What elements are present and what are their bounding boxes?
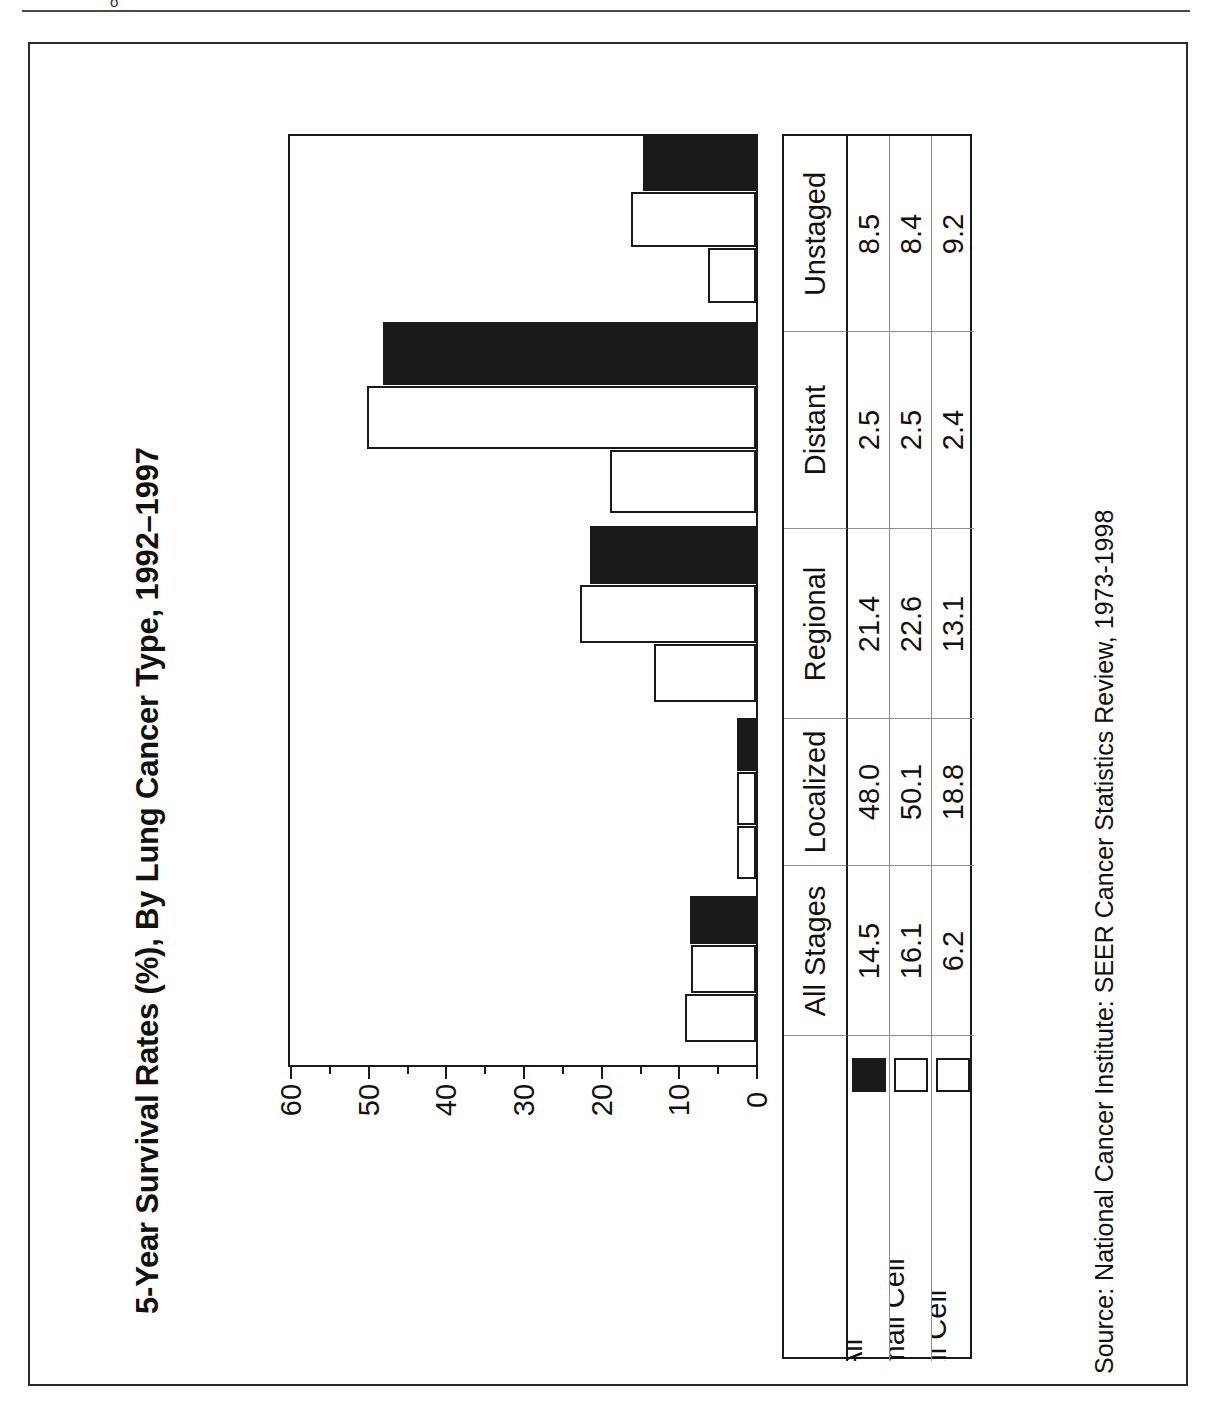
bar-distant-all — [737, 718, 756, 771]
bar-all-stages-non-small-cell — [631, 192, 756, 247]
axis-tick-label-10: 10 — [663, 1065, 693, 1135]
legend-label-non-small-cell: Non-Small Cell — [890, 1258, 911, 1361]
bar-localized-all — [383, 322, 756, 385]
axis-tick-35 — [484, 1065, 486, 1074]
page-header-cropped-text: o — [110, 0, 170, 7]
axis-tick-label-30: 30 — [508, 1065, 538, 1135]
page-title: 5-Year Survival Rates (%), By Lung Cance… — [118, 154, 178, 1314]
axis-tick-55 — [329, 1065, 331, 1074]
table-cell-non-small-cell-distant: 2.5 — [890, 332, 932, 529]
table-column-header-all-stages: All Stages — [784, 866, 848, 1036]
data-table: Unstaged8.58.49.2Distant2.52.52.4Regiona… — [782, 134, 972, 1359]
table-cell-non-small-cell-all-stages: 16.1 — [890, 866, 932, 1036]
axis-tick-label-20: 20 — [586, 1065, 616, 1135]
table-cell-non-small-cell-localized: 50.1 — [890, 719, 932, 866]
table-row-header-non-small-cell: Non-Small Cell — [890, 1036, 932, 1361]
bar-unstaged-all — [690, 896, 756, 944]
bar-unstaged-small-cell — [685, 994, 756, 1042]
table-column-header-regional: Regional — [784, 529, 848, 719]
bar-localized-non-small-cell — [367, 386, 756, 449]
table-cell-all-regional: 21.4 — [848, 529, 890, 719]
axis-tick-label-40: 40 — [430, 1065, 460, 1135]
axis-tick-5 — [717, 1065, 719, 1074]
legend-label-all: All — [848, 1339, 869, 1361]
axis-tick-label-60: 60 — [275, 1065, 305, 1135]
data-table-grid: Unstaged8.58.49.2Distant2.52.52.4Regiona… — [782, 134, 972, 1359]
table-corner-cell — [784, 1036, 848, 1361]
table-cell-all-all-stages: 14.5 — [848, 866, 890, 1036]
legend-swatch-all — [852, 1058, 886, 1092]
table-cell-small-cell-regional: 13.1 — [932, 529, 974, 719]
table-cell-non-small-cell-regional: 22.6 — [890, 529, 932, 719]
bar-regional-small-cell — [654, 644, 756, 702]
axis-tick-15 — [640, 1065, 642, 1074]
legend-swatch-small-cell — [936, 1058, 970, 1092]
table-cell-non-small-cell-unstaged: 8.4 — [890, 136, 932, 332]
axis-tick-45 — [407, 1065, 409, 1074]
bar-localized-small-cell — [610, 450, 756, 513]
table-cell-all-localized: 48.0 — [848, 719, 890, 866]
table-row-header-small-cell: Small Cell — [932, 1036, 974, 1361]
axis-tick-label-50: 50 — [353, 1065, 383, 1135]
bar-unstaged-non-small-cell — [691, 945, 756, 993]
bar-regional-all — [590, 526, 756, 584]
table-column-header-localized: Localized — [784, 719, 848, 866]
table-column-header-unstaged: Unstaged — [784, 136, 848, 332]
figure-border: 5-Year Survival Rates (%), By Lung Cance… — [28, 42, 1188, 1386]
page-header-rule — [22, 10, 1190, 12]
plot-area — [288, 134, 758, 1067]
table-row-header-all: All — [848, 1036, 890, 1361]
axis-tick-label-0: 0 — [741, 1065, 771, 1135]
axis-tick-25 — [562, 1065, 564, 1074]
bar-distant-small-cell — [737, 826, 756, 879]
bar-all-stages-small-cell — [708, 248, 756, 303]
legend-swatch-non-small-cell — [894, 1058, 928, 1092]
table-cell-small-cell-unstaged: 9.2 — [932, 136, 974, 332]
table-cell-small-cell-distant: 2.4 — [932, 332, 974, 529]
table-column-header-distant: Distant — [784, 332, 848, 529]
bar-distant-non-small-cell — [737, 772, 756, 825]
bar-regional-non-small-cell — [580, 585, 756, 643]
table-cell-small-cell-all-stages: 6.2 — [932, 866, 974, 1036]
table-cell-small-cell-localized: 18.8 — [932, 719, 974, 866]
source-note: Source: National Cancer Institute: SEER … — [1090, 374, 1126, 1374]
bar-all-stages-all — [643, 136, 756, 191]
table-cell-all-distant: 2.5 — [848, 332, 890, 529]
table-cell-all-unstaged: 8.5 — [848, 136, 890, 332]
legend-label-small-cell: Small Cell — [932, 1290, 953, 1361]
